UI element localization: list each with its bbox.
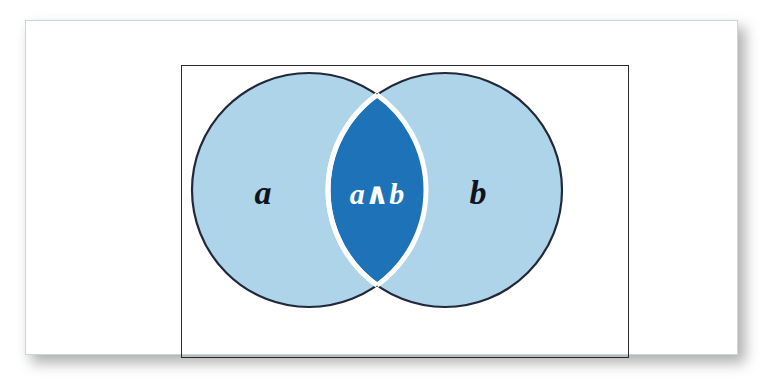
figure-canvas: a a∧b b bbox=[0, 0, 768, 383]
set-b-label: b bbox=[470, 174, 487, 211]
venn-diagram: a a∧b b bbox=[0, 0, 768, 383]
set-a-label: a bbox=[255, 174, 272, 211]
intersection-label: a∧b bbox=[350, 177, 404, 210]
